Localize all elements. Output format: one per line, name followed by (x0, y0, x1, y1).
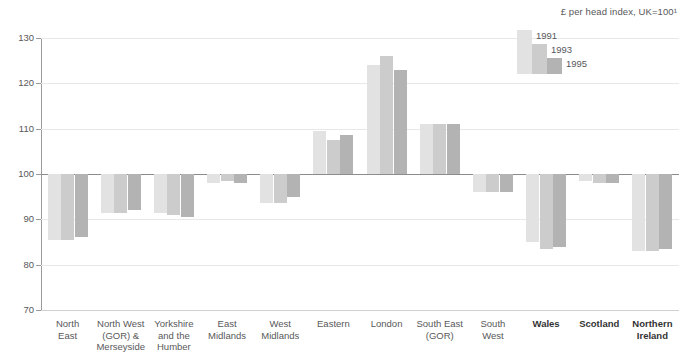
category-label-line: East (201, 318, 254, 330)
bar (313, 131, 326, 174)
category-label-line: Wales (520, 318, 573, 330)
bar (287, 174, 300, 197)
category-label-line: West (254, 318, 307, 330)
legend-label-1991: 1991 (536, 30, 557, 41)
bar (101, 174, 114, 213)
bar (593, 174, 606, 183)
category-label: NorthEast (41, 318, 94, 341)
chart-legend: 1991 1993 1995 (517, 30, 677, 82)
bar (646, 174, 659, 251)
y-tick-label-100: 100 (4, 168, 34, 179)
bar-group (367, 38, 407, 310)
bar (526, 174, 539, 242)
category-label-line: North (41, 318, 94, 330)
bar (167, 174, 180, 215)
bar (553, 174, 566, 247)
y-tick-label-80: 80 (4, 259, 34, 270)
y-tick-label-90: 90 (4, 213, 34, 224)
bar (327, 140, 340, 174)
bar (367, 65, 380, 174)
bar-group (313, 38, 353, 310)
legend-swatch-1993 (532, 44, 547, 74)
legend-label-1993: 1993 (551, 44, 572, 55)
category-label: WestMidlands (254, 318, 307, 341)
bar (579, 174, 592, 181)
chart-container: £ per head index, UK=100¹ 13012011010090… (0, 0, 685, 363)
category-label: Eastern (307, 318, 360, 330)
category-label-line: (GOR) (413, 330, 466, 342)
bar (380, 56, 393, 174)
bar (500, 174, 513, 192)
category-label-line: South (466, 318, 519, 330)
category-label-line: Eastern (307, 318, 360, 330)
category-label: Scotland (573, 318, 626, 330)
bar (606, 174, 619, 183)
bar (274, 174, 287, 203)
bar (447, 124, 460, 174)
y-tick-label-120: 120 (4, 77, 34, 88)
bar (486, 174, 499, 192)
category-label: North West(GOR) &Merseyside (94, 318, 147, 353)
bar (540, 174, 553, 249)
category-label: Wales (520, 318, 573, 330)
bar (114, 174, 127, 213)
bar (659, 174, 672, 249)
category-label-line: Midlands (254, 330, 307, 342)
bar (154, 174, 167, 213)
bar (420, 124, 433, 174)
bar-group (48, 38, 88, 310)
legend-swatch-1995 (547, 58, 562, 74)
bar-group (207, 38, 247, 310)
y-tick-label-130: 130 (4, 32, 34, 43)
category-label-line: (GOR) & (94, 330, 147, 342)
bar (340, 135, 353, 174)
bar-group (260, 38, 300, 310)
legend-label-1995: 1995 (566, 58, 587, 69)
category-label-line: South East (413, 318, 466, 330)
category-label: South East(GOR) (413, 318, 466, 341)
chart-subtitle: £ per head index, UK=100¹ (561, 6, 677, 17)
bar-group (420, 38, 460, 310)
category-label-line: London (360, 318, 413, 330)
category-label: EastMidlands (201, 318, 254, 341)
bar (221, 174, 234, 181)
bar (260, 174, 273, 203)
category-label: London (360, 318, 413, 330)
category-label-line: and the (147, 330, 200, 342)
y-tick-mark-70 (36, 310, 41, 311)
category-label-line: Merseyside (94, 341, 147, 353)
category-label-line: East (41, 330, 94, 342)
category-label-line: Ireland (626, 330, 679, 342)
gridline-70 (41, 310, 679, 311)
category-label-line: Yorkshire (147, 318, 200, 330)
bar (394, 70, 407, 174)
bar (433, 124, 446, 174)
bar-group (154, 38, 194, 310)
bar (473, 174, 486, 192)
bar-group (101, 38, 141, 310)
category-label: Yorkshireand theHumber (147, 318, 200, 353)
category-label-line: North West (94, 318, 147, 330)
bar (632, 174, 645, 251)
category-label-line: Midlands (201, 330, 254, 342)
category-label: NorthernIreland (626, 318, 679, 341)
category-label-line: Humber (147, 341, 200, 353)
category-label-line: Scotland (573, 318, 626, 330)
y-tick-label-70: 70 (4, 304, 34, 315)
y-tick-label-110: 110 (4, 123, 34, 134)
category-label-line: West (466, 330, 519, 342)
category-label: SouthWest (466, 318, 519, 341)
category-label-line: Northern (626, 318, 679, 330)
bar (61, 174, 74, 240)
bar (181, 174, 194, 217)
bar (128, 174, 141, 210)
legend-swatch-1991 (517, 30, 532, 74)
bar (207, 174, 220, 183)
bar (234, 174, 247, 183)
bar (75, 174, 88, 237)
bar (48, 174, 61, 240)
bar-group (473, 38, 513, 310)
